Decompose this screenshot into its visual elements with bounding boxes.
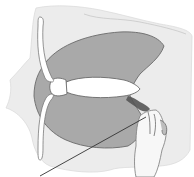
hand [135,110,167,177]
diagram-canvas [0,0,194,177]
anatomical-diagram [0,0,194,177]
hand-palm [135,110,167,177]
